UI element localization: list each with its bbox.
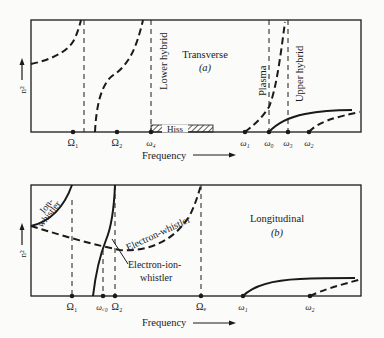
tick-a-omega3: ω₃	[283, 138, 292, 148]
lower-hybrid-label: Lower hybrid	[158, 32, 169, 90]
tick-b-omega2: ω₂	[305, 302, 314, 312]
curve-a-branch1	[31, 20, 81, 64]
tick-b-Omega1: Ω₁	[67, 301, 78, 312]
y-axis-label-b: n²	[18, 250, 28, 258]
panel-a-subtitle: (a)	[199, 62, 212, 74]
hiss-label: Hiss	[167, 124, 184, 134]
electron-ion-whistler-label-2: whistler	[140, 272, 173, 283]
curve-electron-whistler	[31, 185, 201, 250]
tick-b-Omegae: Ωₑ	[196, 301, 206, 312]
x-axis-label-a: Frequency	[142, 150, 187, 161]
plasma-label: Plasma	[257, 65, 268, 96]
tick-b-omega1: ω₁	[238, 302, 247, 312]
tick-a-Omega2: Ω₂	[112, 137, 123, 148]
tick-a-omega1: ω₁	[240, 138, 249, 148]
panel-b-title: Longitudinal	[250, 213, 304, 224]
tick-b-Omega2: Ω₂	[112, 301, 123, 312]
tick-a-omega2: ω₂	[304, 138, 313, 148]
panel-transverse: Hiss Lower hybrid Plasma Upper hybrid Tr…	[18, 20, 361, 161]
curve-electron-ion-whistler	[93, 185, 115, 296]
panel-b-subtitle: (b)	[271, 227, 284, 239]
tick-a-omega0: ω₀	[264, 138, 273, 148]
upper-hybrid-label: Upper hybrid	[294, 45, 305, 102]
dispersion-diagram: Hiss Lower hybrid Plasma Upper hybrid Tr…	[0, 0, 384, 338]
electron-whistler-label: Electron-whistler	[124, 213, 192, 253]
curve-a-branch2	[95, 20, 143, 132]
panel-longitudinal: Ion- whistler Electron-whistler Electron…	[18, 185, 362, 328]
tick-b-omegac0: ω꜀₀	[96, 303, 108, 312]
x-axis-label-b: Frequency	[142, 317, 187, 328]
arrow-right-icon	[229, 153, 236, 158]
y-axis-label-a: n²	[18, 86, 28, 94]
curve-b-omega2	[310, 279, 362, 296]
curve-a-branch5	[309, 112, 360, 132]
tick-a-Omega1: Ω₁	[68, 137, 79, 148]
arrow-up-icon	[20, 223, 25, 230]
arrow-right-icon	[229, 321, 236, 326]
panel-a-frame	[31, 20, 361, 132]
panel-a-title: Transverse	[182, 49, 228, 60]
curve-a-branch4	[269, 110, 352, 132]
tick-a-omega4: ω₄	[146, 138, 155, 148]
electron-ion-whistler-label-1: Electron-ion-	[128, 259, 181, 270]
curve-b-omega1	[243, 278, 355, 296]
arrow-up-icon	[20, 58, 25, 65]
